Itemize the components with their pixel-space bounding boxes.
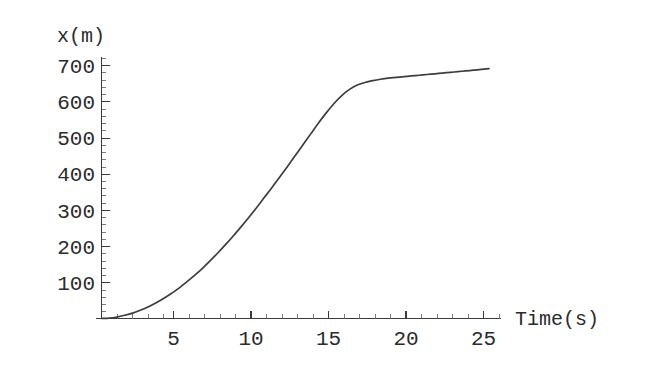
y-axis-tick-labels: 700 600 500 400 300 200 100 — [57, 56, 95, 296]
x-tick-label-20: 20 — [393, 328, 418, 351]
x-tick-label-25: 25 — [471, 328, 496, 351]
position-time-line-chart: x(m) — [0, 0, 652, 367]
chart-figure: x(m) — [0, 0, 652, 367]
x-axis-title: Time(s) — [515, 308, 599, 331]
x-axis-ticks — [117, 311, 499, 319]
y-tick-label-400: 400 — [57, 164, 95, 187]
y-tick-label-700: 700 — [57, 56, 95, 79]
y-tick-label-100: 100 — [57, 273, 95, 296]
y-axis-title: x(m) — [57, 25, 105, 48]
y-axis-ticks — [102, 59, 110, 312]
x-tick-label-15: 15 — [316, 328, 341, 351]
x-axis-tick-labels: 5 10 15 20 25 — [167, 328, 496, 351]
axis-lines — [96, 57, 501, 319]
x-tick-label-5: 5 — [167, 328, 180, 351]
y-tick-label-200: 200 — [57, 237, 95, 260]
y-tick-label-500: 500 — [57, 128, 95, 151]
data-series-position-curve — [102, 69, 490, 319]
y-tick-label-300: 300 — [57, 201, 95, 224]
y-tick-label-600: 600 — [57, 92, 95, 115]
x-tick-label-10: 10 — [238, 328, 263, 351]
